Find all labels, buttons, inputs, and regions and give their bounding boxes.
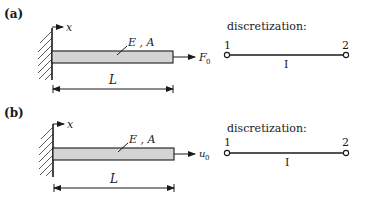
- length-label: L: [109, 172, 118, 186]
- fixed-support-wall: [39, 124, 53, 177]
- panel-b: (b) x E , A u 0: [4, 106, 349, 192]
- length-dimension: L: [53, 73, 173, 93]
- load-subscript: 0: [206, 58, 210, 66]
- panel-label: (b): [4, 106, 24, 120]
- node-1: [224, 150, 229, 155]
- discretization-title: discretization:: [227, 122, 307, 135]
- node-1-label: 1: [224, 39, 231, 52]
- element-label: I: [285, 156, 289, 169]
- x-axis-indicator: x: [52, 21, 73, 34]
- length-label: L: [108, 73, 117, 87]
- panel-a: (a) x E , A F 0: [4, 7, 349, 93]
- displacement-subscript: 0: [205, 154, 209, 162]
- bar-element: [53, 148, 174, 160]
- element-label: I: [284, 58, 288, 71]
- x-axis-label: x: [66, 21, 73, 34]
- panel-label: (a): [4, 7, 23, 21]
- bar-element: [52, 51, 173, 63]
- discretization-title: discretization:: [227, 20, 307, 33]
- x-axis-label: x: [67, 118, 74, 131]
- length-dimension: L: [54, 172, 174, 192]
- node-2-label: 2: [342, 39, 349, 52]
- material-label: E , A: [127, 36, 155, 49]
- node-2-label: 2: [342, 136, 349, 149]
- fixed-support-wall: [38, 28, 52, 80]
- x-axis-indicator: x: [53, 118, 74, 131]
- discretization-b: discretization: 1 2 I: [224, 122, 349, 169]
- node-2: [343, 52, 348, 57]
- material-label: E , A: [128, 133, 156, 146]
- diagram-canvas: (a) x E , A F 0: [0, 0, 369, 199]
- node-2: [343, 150, 348, 155]
- node-1: [224, 52, 229, 57]
- discretization-a: discretization: 1 2 I: [224, 20, 349, 71]
- node-1-label: 1: [224, 136, 231, 149]
